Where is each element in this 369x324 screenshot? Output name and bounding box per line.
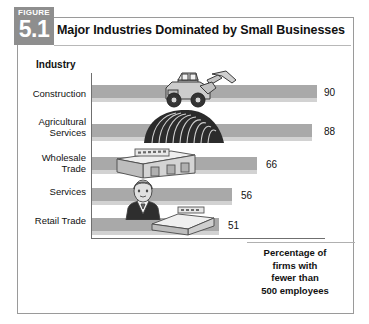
caption-line-2: firms with [235,260,355,273]
category-label-line: Services [4,186,86,197]
bar-value-agricultural-services: 88 [324,126,335,137]
retail-package-clipart [148,206,218,240]
category-label-wholesale-trade: Wholesale Trade [4,152,86,174]
figure-badge-number: 5.1 [14,16,54,43]
bar-value-wholesale-trade: 66 [266,159,277,170]
figure-title: Major Industries Dominated by Small Busi… [57,23,345,37]
category-label-line: Wholesale [4,152,86,163]
bar-value-services: 56 [241,190,252,201]
caption-line-1: Percentage of [235,247,355,260]
caption-line-3: fewer than [235,272,355,285]
y-axis-heading: Industry [36,59,75,70]
caption-block: Percentage of firms with fewer than 500 … [235,247,355,297]
category-label-line: Construction [4,88,86,99]
bar-value-retail-trade: 51 [228,220,239,231]
category-label-line: Retail Trade [4,215,86,226]
caption-divider [247,242,355,243]
category-label-line: Trade [4,163,86,174]
figure-number-badge: FIGURE 5.1 [14,7,54,45]
category-label-line: Services [4,127,86,138]
category-label-line: Agricultural [4,116,86,127]
plowed-field-clipart [140,109,226,149]
bar-value-construction: 90 [324,87,335,98]
category-label-agricultural-services: Agricultural Services [4,116,86,138]
caption-line-4: 500 employees [235,285,355,298]
bulldozer-clipart [152,68,248,114]
title-divider [54,45,351,46]
